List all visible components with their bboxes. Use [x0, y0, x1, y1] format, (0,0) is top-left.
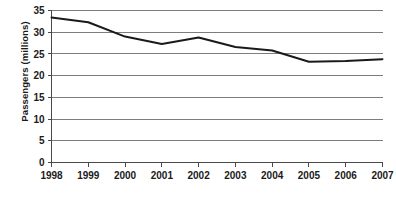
x-axis-ticks-group	[52, 163, 383, 167]
x-tick-label: 1998	[40, 170, 63, 181]
y-tick-label: 30	[33, 27, 45, 38]
y-axis-labels-group: 05101520253035	[33, 5, 45, 168]
y-tick-label: 10	[33, 114, 45, 125]
x-tick-label: 2000	[114, 170, 137, 181]
y-tick-label: 15	[33, 92, 45, 103]
gridlines-group	[52, 11, 383, 163]
y-tick-label: 25	[33, 49, 45, 60]
x-tick-label: 2005	[298, 170, 321, 181]
y-tick-label: 5	[39, 135, 45, 146]
x-tick-label: 1999	[77, 170, 100, 181]
y-tick-label: 0	[39, 157, 45, 168]
y-tick-label: 35	[33, 5, 45, 16]
line-chart: Passengers (millions) 05101520253035 199…	[0, 0, 396, 197]
x-tick-label: 2003	[224, 170, 247, 181]
x-tick-label: 2004	[261, 170, 284, 181]
x-tick-label: 2002	[187, 170, 210, 181]
y-tick-label: 20	[33, 70, 45, 81]
x-tick-label: 2001	[151, 170, 174, 181]
x-tick-label: 2007	[371, 170, 394, 181]
data-series-line	[52, 17, 383, 61]
x-tick-label: 2006	[335, 170, 358, 181]
chart-plot-area: 05101520253035 1998199920002001200220032…	[0, 0, 396, 197]
x-axis-labels-group: 1998199920002001200220032004200520062007	[40, 170, 394, 181]
